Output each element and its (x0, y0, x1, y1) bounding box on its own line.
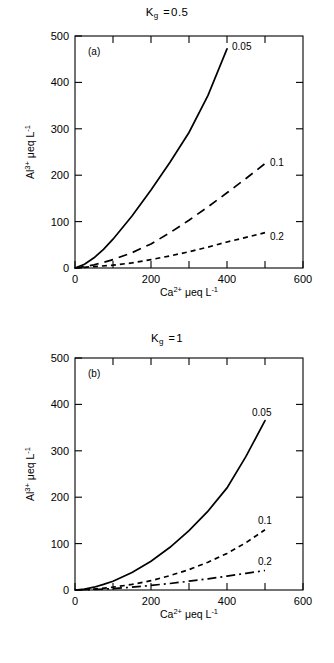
panel-b-xaxis-label: Ca2+ μeq L-1 (160, 607, 218, 620)
panel-b-y-ticks-right (296, 404, 303, 543)
panel-b-curvelabel-01: 0.1 (258, 515, 272, 526)
panel-b-yticklabel-500: 500 (51, 352, 69, 364)
panel-a-yticklabel-400: 400 (51, 76, 69, 88)
panel-b-yticklabel-400: 400 (51, 398, 69, 410)
panel-a-xticklabel-200: 200 (142, 273, 160, 285)
panel-a-curvelabel-02: 0.2 (270, 231, 284, 242)
panel-b-yticklabel-0: 0 (63, 584, 69, 596)
panel-a-title: Kg =0.5 (0, 6, 334, 20)
panel-a-title-k: K (146, 6, 154, 18)
panel-b-letter: (b) (88, 368, 100, 379)
panel-a-curve-01 (75, 164, 265, 268)
panel-a-xticklabel-0: 0 (72, 273, 78, 285)
panel-a-letter: (a) (88, 46, 100, 57)
panel-a-curvelabel-01: 0.1 (270, 157, 284, 168)
panel-a-plot: 0 100 200 300 400 500 0 200 400 600 Ca2+… (0, 0, 334, 300)
panel-a-yticklabel-300: 300 (51, 123, 69, 135)
panel-a-xaxis-label: Ca2+ μeq L-1 (160, 285, 218, 298)
panel-b-curve-02 (75, 571, 265, 591)
panel-a-curve-005 (75, 49, 227, 268)
panel-b-curve-01 (75, 530, 265, 590)
panel-b-curvelabel-005: 0.05 (252, 407, 272, 418)
panel-b-xticklabel-600: 600 (294, 595, 312, 607)
panel-b-title: Kg =1 (0, 332, 334, 346)
panel-b-xticklabel-0: 0 (72, 595, 78, 607)
panel-b-curvelabel-02: 0.2 (258, 556, 272, 567)
panel-a-curvelabel-005: 0.05 (232, 41, 252, 52)
panel-b-yticklabel-100: 100 (51, 538, 69, 550)
panel-a-y-ticks-right (296, 82, 303, 221)
panel-b-plot: 0 100 200 300 400 500 0 200 400 600 Ca2+… (0, 328, 334, 638)
panel-b-title-k: K (151, 332, 159, 344)
panel-b-yticklabel-200: 200 (51, 491, 69, 503)
panel-b-title-equals: = (167, 332, 176, 344)
figure-container: Kg =0.5 (0, 0, 334, 663)
panel-a-yticklabel-500: 500 (51, 30, 69, 42)
panel-b-y-ticks (75, 358, 82, 590)
panel-b-yaxis-label: Al3+ μeq L-1 (23, 447, 36, 501)
panel-a-yticklabel-100: 100 (51, 216, 69, 228)
panel-a-yaxis-label: Al3+ μeq L-1 (23, 125, 36, 179)
panel-b-x-ticks-top (113, 358, 265, 365)
panel-b-yticklabel-300: 300 (51, 445, 69, 457)
panel-b-title-subscript: g (159, 337, 164, 346)
panel-a-title-equals: = (162, 6, 171, 18)
panel-b-curve-005 (75, 421, 265, 590)
panel-a-yticklabel-0: 0 (63, 262, 69, 274)
panel-a-xticklabel-600: 600 (294, 273, 312, 285)
chart-panel-a: Kg =0.5 (0, 0, 334, 320)
panel-a-y-ticks (75, 36, 82, 268)
panel-b-xticklabel-400: 400 (218, 595, 236, 607)
panel-a-xticklabel-400: 400 (218, 273, 236, 285)
panel-b-title-value: 1 (176, 332, 183, 344)
chart-panel-b: Kg =1 (0, 328, 334, 658)
panel-b-x-ticks (75, 583, 303, 590)
panel-b-xticklabel-200: 200 (142, 595, 160, 607)
panel-a-yticklabel-200: 200 (51, 169, 69, 181)
panel-a-axes-frame (75, 36, 303, 268)
panel-a-title-value: 0.5 (171, 6, 188, 18)
panel-a-title-subscript: g (154, 11, 159, 20)
panel-a-x-ticks (75, 261, 303, 268)
